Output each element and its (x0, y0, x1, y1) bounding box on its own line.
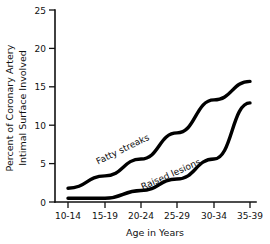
y-tick-label-10: 10 (35, 121, 47, 131)
x-tick-label-10-14: 10-14 (55, 211, 81, 221)
y-tick-label-0: 0 (40, 198, 46, 208)
x-tick-label-30-34: 30-34 (201, 211, 227, 221)
series-label-raised-lesions: Raised lesions (140, 157, 203, 192)
x-tick-label-15-19: 15-19 (92, 211, 118, 221)
series-label-fatty-streaks: Fatty streaks (95, 132, 152, 166)
y-tick-label-25: 25 (35, 6, 46, 16)
y-tick-label-15: 15 (35, 82, 46, 92)
chart-figure: Percent of Coronary Artery Intimal Surfa… (0, 0, 270, 244)
y-axis-ticks: 0 5 10 15 20 25 (35, 6, 55, 208)
line-chart: Percent of Coronary Artery Intimal Surfa… (0, 0, 270, 244)
y-tick-label-5: 5 (40, 159, 46, 169)
x-tick-label-35-39: 35-39 (237, 211, 263, 221)
y-axis-title-line2: Intimal Surface Involved (17, 50, 28, 166)
y-axis-title-line1: Percent of Coronary Artery (4, 44, 15, 171)
series-line-fatty-streaks (68, 81, 250, 188)
x-axis-title: Age in Years (126, 227, 184, 238)
x-axis-ticks: 10-14 15-19 20-24 25-29 30-34 35-39 (55, 202, 263, 221)
y-axis-title: Percent of Coronary Artery Intimal Surfa… (4, 44, 28, 171)
x-tick-label-20-24: 20-24 (128, 211, 154, 221)
y-tick-label-20: 20 (35, 44, 47, 54)
x-tick-label-25-29: 25-29 (164, 211, 190, 221)
